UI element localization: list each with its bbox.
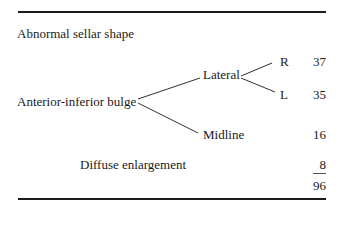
lateral-label: Lateral bbox=[203, 67, 240, 82]
sum-rule bbox=[313, 173, 326, 174]
diffuse-label: Diffuse enlargement bbox=[80, 157, 186, 172]
bottom-rule bbox=[18, 198, 326, 200]
count-total: 96 bbox=[296, 178, 326, 193]
left-label: L bbox=[280, 87, 288, 102]
count-diffuse: 8 bbox=[296, 157, 326, 172]
root-label: Anterior-inferior bulge bbox=[17, 94, 136, 109]
count-right: 37 bbox=[296, 54, 326, 69]
count-midline: 16 bbox=[296, 127, 326, 142]
count-left: 35 bbox=[296, 87, 326, 102]
midline-label: Midline bbox=[203, 127, 244, 142]
right-label: R bbox=[280, 54, 289, 69]
